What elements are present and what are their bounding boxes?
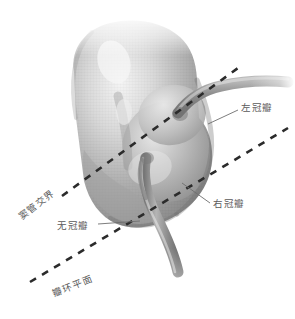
rca-edge-fade [158, 248, 198, 288]
label-right-coronary-cusp: 右冠瓣 [213, 199, 245, 209]
top-fade [60, 14, 220, 56]
aortic-root-illustration [0, 0, 295, 319]
highlight-mid [116, 99, 132, 125]
leader-left-cusp [208, 110, 238, 124]
label-non-coronary-cusp: 无冠瓣 [57, 221, 89, 231]
label-left-coronary-cusp: 左冠瓣 [241, 103, 273, 113]
aortic-root [60, 14, 230, 240]
lca-edge-fade [250, 68, 295, 102]
rca-ostium [140, 152, 154, 164]
